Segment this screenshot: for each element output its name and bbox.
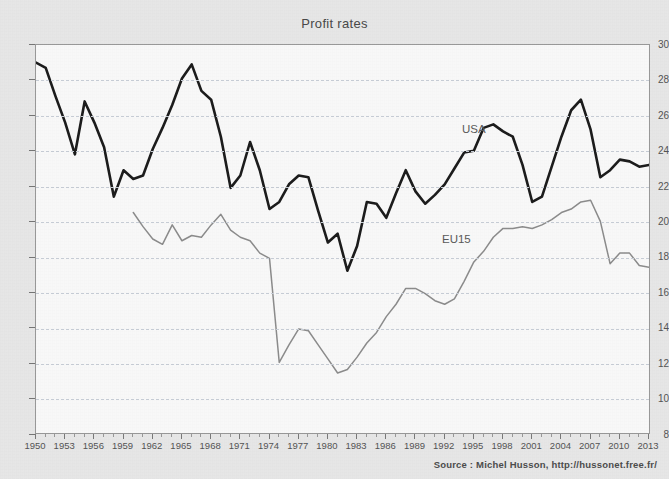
- xtick-mark-minor: [609, 434, 610, 437]
- xtick-mark-minor: [54, 434, 55, 437]
- xtick-label-1980: 1980: [312, 440, 342, 451]
- xtick-mark-major: [123, 434, 124, 439]
- xtick-label-1968: 1968: [195, 440, 225, 451]
- xtick-mark-major: [560, 434, 561, 439]
- xtick-mark-minor: [405, 434, 406, 437]
- xtick-mark-minor: [307, 434, 308, 437]
- xtick-label-1965: 1965: [166, 440, 196, 451]
- xtick-mark-major: [473, 434, 474, 439]
- xtick-label-1959: 1959: [108, 440, 138, 451]
- gridline: [36, 222, 649, 223]
- xtick-mark-minor: [132, 434, 133, 437]
- xtick-label-1962: 1962: [137, 440, 167, 451]
- xtick-mark-major: [356, 434, 357, 439]
- xtick-label-1974: 1974: [254, 440, 284, 451]
- xtick-mark-minor: [84, 434, 85, 437]
- gridline: [36, 80, 649, 81]
- xtick-mark-minor: [512, 434, 513, 437]
- xtick-label-1956: 1956: [78, 440, 108, 451]
- xtick-label-2010: 2010: [604, 440, 634, 451]
- xtick-label-1971: 1971: [224, 440, 254, 451]
- gridline: [36, 329, 649, 330]
- xtick-mark-major: [64, 434, 65, 439]
- gridline: [36, 399, 649, 400]
- xtick-mark-minor: [171, 434, 172, 437]
- xtick-mark-minor: [492, 434, 493, 437]
- xtick-mark-major: [93, 434, 94, 439]
- xtick-mark-minor: [259, 434, 260, 437]
- xtick-mark-minor: [599, 434, 600, 437]
- xtick-mark-minor: [638, 434, 639, 437]
- xtick-label-1995: 1995: [458, 440, 488, 451]
- series-line-usa: [36, 63, 649, 271]
- xtick-label-1989: 1989: [399, 440, 429, 451]
- xtick-mark-major: [269, 434, 270, 439]
- xtick-mark-major: [590, 434, 591, 439]
- source-note: Source : Michel Husson, http://hussonet.…: [434, 459, 657, 470]
- xtick-label-2013: 2013: [633, 440, 663, 451]
- xtick-mark-minor: [249, 434, 250, 437]
- gridline: [36, 116, 649, 117]
- xtick-mark-minor: [288, 434, 289, 437]
- xtick-mark-minor: [366, 434, 367, 437]
- xtick-label-2001: 2001: [516, 440, 546, 451]
- xtick-mark-minor: [346, 434, 347, 437]
- series-plot: [36, 45, 649, 433]
- gridline: [36, 364, 649, 365]
- series-label-usa: USA: [462, 123, 486, 135]
- gridline: [36, 293, 649, 294]
- gridline: [36, 258, 649, 259]
- xtick-label-1986: 1986: [370, 440, 400, 451]
- xtick-mark-minor: [453, 434, 454, 437]
- x-axis: 1950195319561959196219651968197119741977…: [0, 440, 669, 456]
- xtick-label-1977: 1977: [283, 440, 313, 451]
- xtick-mark-major: [327, 434, 328, 439]
- plot-area: USA EU15: [35, 44, 650, 434]
- xtick-mark-major: [648, 434, 649, 439]
- xtick-label-1992: 1992: [429, 440, 459, 451]
- xtick-mark-major: [531, 434, 532, 439]
- series-label-eu15: EU15: [442, 233, 471, 245]
- xtick-mark-minor: [434, 434, 435, 437]
- xtick-mark-minor: [337, 434, 338, 437]
- xtick-mark-minor: [541, 434, 542, 437]
- xtick-mark-minor: [230, 434, 231, 437]
- xtick-label-1983: 1983: [341, 440, 371, 451]
- xtick-mark-minor: [191, 434, 192, 437]
- xtick-mark-minor: [113, 434, 114, 437]
- xtick-mark-minor: [424, 434, 425, 437]
- xtick-mark-minor: [580, 434, 581, 437]
- xtick-label-1950: 1950: [20, 440, 50, 451]
- xtick-mark-major: [239, 434, 240, 439]
- xtick-mark-minor: [376, 434, 377, 437]
- xtick-label-1998: 1998: [487, 440, 517, 451]
- xtick-mark-major: [181, 434, 182, 439]
- xtick-mark-minor: [395, 434, 396, 437]
- xtick-label-2004: 2004: [545, 440, 575, 451]
- xtick-mark-minor: [522, 434, 523, 437]
- xtick-mark-minor: [220, 434, 221, 437]
- gridline: [36, 187, 649, 188]
- xtick-mark-minor: [463, 434, 464, 437]
- xtick-label-2007: 2007: [575, 440, 605, 451]
- xtick-mark-minor: [629, 434, 630, 437]
- xtick-mark-minor: [45, 434, 46, 437]
- gridline: [36, 151, 649, 152]
- xtick-mark-minor: [74, 434, 75, 437]
- xtick-mark-major: [35, 434, 36, 439]
- chart-title: Profit rates: [0, 16, 669, 31]
- xtick-mark-minor: [483, 434, 484, 437]
- xtick-mark-major: [152, 434, 153, 439]
- xtick-mark-minor: [142, 434, 143, 437]
- xtick-mark-major: [502, 434, 503, 439]
- xtick-mark-minor: [161, 434, 162, 437]
- xtick-mark-major: [210, 434, 211, 439]
- xtick-mark-minor: [317, 434, 318, 437]
- xtick-mark-minor: [200, 434, 201, 437]
- xtick-mark-major: [298, 434, 299, 439]
- series-line-eu15: [133, 200, 649, 373]
- xtick-mark-minor: [278, 434, 279, 437]
- xtick-mark-major: [619, 434, 620, 439]
- xtick-label-1953: 1953: [49, 440, 79, 451]
- xtick-mark-major: [385, 434, 386, 439]
